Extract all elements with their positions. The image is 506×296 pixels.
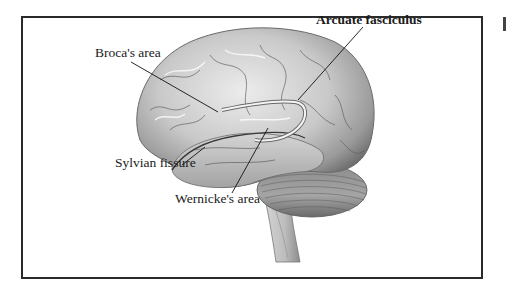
label-sylvian-fissure: Sylvian fissure (115, 156, 196, 170)
label-arcuate-fasciculus: Arcuate fasciculus (316, 13, 422, 27)
label-brocas-area: Broca's area (95, 46, 161, 60)
brain-illustration (0, 0, 506, 296)
label-wernickes-area: Wernicke's area (175, 192, 260, 206)
